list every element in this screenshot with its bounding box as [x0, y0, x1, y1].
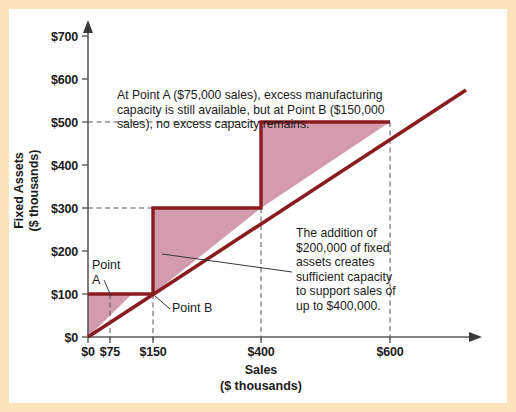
x-tick-label-150: $150	[129, 345, 177, 359]
excess-capacity-region-2-main	[153, 208, 261, 294]
top-annotation: At Point A ($75,000 sales), excess manuf…	[117, 88, 437, 132]
y-axis-title-line1: Fixed Assets	[12, 121, 27, 261]
x-tick-label-75: $75	[89, 345, 131, 359]
x-tick-label-600: $600	[365, 345, 415, 359]
y-tick-label-500: $500	[36, 116, 78, 130]
y-axis-arrow-icon	[83, 20, 93, 33]
y-axis-ticks	[82, 36, 88, 337]
y-tick-label-300: $300	[36, 202, 78, 216]
y-tick-label-400: $400	[36, 159, 78, 173]
point-b-leader-line	[155, 296, 170, 309]
y-tick-label-0: $0	[36, 331, 78, 345]
point-b-label: Point B	[172, 301, 242, 316]
x-tick-label-400: $400	[236, 345, 286, 359]
right-annotation: The addition of $200,000 of fixed assets…	[296, 226, 418, 314]
chart-figure: Fixed Assets ($ thousands) $700 $600 $50…	[0, 0, 516, 412]
y-tick-label-200: $200	[36, 245, 78, 259]
x-axis-title: Sales	[211, 363, 311, 377]
excess-capacity-region-3-main	[261, 122, 390, 208]
x-axis-title-units: ($ thousands)	[201, 379, 321, 393]
y-axis-title: Fixed Assets ($ thousands)	[12, 121, 41, 261]
point-a-label-text: Point A	[92, 258, 121, 287]
point-a-label: Point A	[92, 258, 142, 288]
y-axis-title-line2: ($ thousands)	[26, 121, 41, 261]
y-tick-label-100: $100	[36, 288, 78, 302]
y-tick-label-600: $600	[36, 73, 78, 87]
x-axis-arrow-icon	[469, 332, 482, 342]
y-tick-label-700: $700	[36, 30, 78, 44]
x-axis-ticks	[88, 337, 390, 343]
